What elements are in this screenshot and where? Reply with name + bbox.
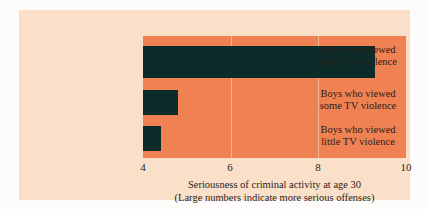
category-label-much: Boys who viewedmuch TV violence [306, 44, 410, 68]
xaxis-label: Seriousness of criminal activity at age … [143, 178, 406, 191]
bar-little-tv-violence [143, 126, 161, 151]
category-label-some: Boys who viewedsome TV violence [306, 88, 410, 112]
xaxis-label-note: (Large numbers indicate more serious off… [143, 191, 406, 204]
xtick-label-6: 6 [215, 161, 245, 173]
category-label-little: Boys who viewedlittle TV violence [306, 124, 410, 148]
xtick-label-10: 10 [391, 161, 421, 173]
category-label-much-line2: much TV violence [319, 56, 397, 67]
xtick-label-8: 8 [303, 161, 333, 173]
category-label-little-line2: little TV violence [321, 136, 395, 147]
category-label-much-line1: Boys who viewed [320, 44, 395, 55]
xaxis-caption: Seriousness of criminal activity at age … [143, 178, 406, 204]
category-label-little-line1: Boys who viewed [320, 124, 395, 135]
category-label-some-line1: Boys who viewed [320, 88, 395, 99]
chart-panel: Boys who viewedmuch TV violence Boys who… [19, 10, 410, 200]
chart-figure: Boys who viewedmuch TV violence Boys who… [0, 0, 428, 209]
bar-some-tv-violence [143, 90, 178, 115]
xtick-label-4: 4 [128, 161, 158, 173]
category-label-some-line2: some TV violence [320, 100, 397, 111]
